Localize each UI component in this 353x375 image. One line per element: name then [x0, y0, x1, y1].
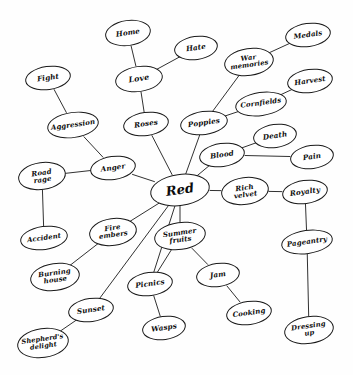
node-label-fight: Fight [37, 73, 60, 83]
node-war-memories[interactable]: War memories [222, 45, 275, 80]
node-label-blood: Blood [210, 150, 235, 161]
mind-map-canvas: RedHomeLoveHateRosesFightAggressionAnger… [0, 0, 353, 375]
node-label-shepherds-delight: Shepherd's delight [21, 333, 65, 352]
node-fight[interactable]: Fight [24, 63, 73, 93]
node-label-red: Red [165, 181, 195, 198]
node-death[interactable]: Death [252, 121, 299, 151]
node-label-cooking: Cooking [232, 307, 266, 319]
node-label-death: Death [262, 131, 287, 142]
node-roses[interactable]: Roses [122, 109, 171, 139]
node-label-dressing-up: Dressing up [291, 321, 327, 340]
node-label-picnics: Picnics [135, 278, 165, 289]
node-jam[interactable]: Jam [195, 260, 242, 290]
node-label-accident: Accident [27, 232, 62, 244]
node-label-cornfields: Cornfields [240, 98, 282, 111]
node-harvest[interactable]: Harvest [286, 66, 335, 96]
node-aggression[interactable]: Aggression [45, 109, 100, 142]
node-picnics[interactable]: Picnics [126, 269, 175, 299]
node-label-wasps: Wasps [151, 323, 178, 334]
node-medals[interactable]: Medals [284, 20, 333, 50]
node-fire-embers[interactable]: Fire embers [87, 215, 138, 249]
node-accident[interactable]: Accident [19, 223, 70, 253]
node-poppies[interactable]: Poppies [179, 108, 230, 138]
node-blood[interactable]: Blood [198, 140, 247, 170]
node-label-pageantry: Pageantry [286, 236, 327, 249]
node-label-aggression: Aggression [50, 118, 95, 131]
node-dressing-up[interactable]: Dressing up [282, 313, 335, 348]
node-label-road-rage: Road rage [31, 168, 53, 185]
node-label-rich-velvet: Rich velvet [232, 182, 257, 199]
node-sunset[interactable]: Sunset [67, 295, 116, 325]
node-royalty[interactable]: Royalty [281, 177, 330, 207]
node-label-love: Love [128, 74, 149, 85]
node-wasps[interactable]: Wasps [141, 313, 188, 343]
node-label-royalty: Royalty [289, 186, 320, 198]
node-label-anger: Anger [100, 163, 125, 174]
node-label-burning-house: Burning house [38, 268, 72, 286]
node-hate[interactable]: Hate [173, 33, 220, 63]
node-red[interactable]: Red [148, 170, 212, 210]
node-label-pain: Pain [302, 152, 321, 162]
node-summer-fruits[interactable]: Summer fruits [152, 219, 207, 254]
node-home[interactable]: Home [103, 17, 152, 49]
node-road-rage[interactable]: Road rage [16, 159, 67, 193]
node-cornfields[interactable]: Cornfields [234, 88, 289, 119]
node-label-poppies: Poppies [188, 117, 221, 129]
node-layer: RedHomeLoveHateRosesFightAggressionAnger… [0, 0, 353, 375]
node-anger[interactable]: Anger [89, 153, 138, 183]
node-label-medals: Medals [293, 29, 323, 40]
node-label-hate: Hate [186, 43, 207, 53]
node-label-fire-embers: Fire embers [98, 223, 129, 241]
node-cooking[interactable]: Cooking [225, 298, 274, 328]
node-love[interactable]: Love [113, 63, 164, 95]
node-label-home: Home [116, 28, 141, 39]
node-rich-velvet[interactable]: Rich velvet [219, 174, 270, 208]
node-pain[interactable]: Pain [289, 142, 336, 172]
node-burning-house[interactable]: Burning house [28, 260, 81, 295]
node-label-harvest: Harvest [294, 75, 326, 86]
node-label-jam: Jam [210, 270, 227, 279]
node-label-sunset: Sunset [77, 304, 106, 315]
node-label-roses: Roses [134, 119, 159, 130]
node-shepherds-delight[interactable]: Shepherd's delight [15, 325, 71, 362]
node-label-war-memories: War memories [229, 52, 269, 71]
node-label-summer-fruits: Summer fruits [162, 227, 197, 246]
node-pageantry[interactable]: Pageantry [280, 226, 335, 257]
